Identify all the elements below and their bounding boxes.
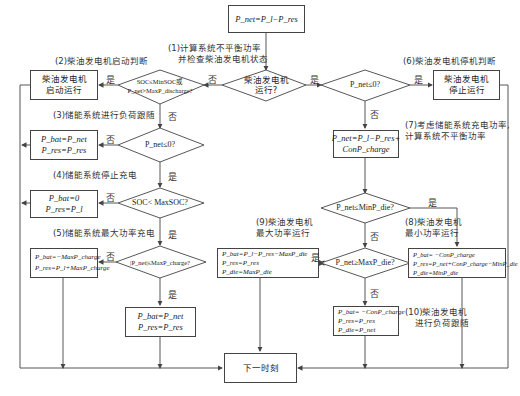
box-diesel-stop: 柴油发电机 停止运行: [433, 70, 500, 100]
annotation-10: (10)柴油发电机 进行负荷跟随: [405, 307, 469, 329]
diamond-soc-text: SOC< MaxSOC?: [124, 198, 196, 208]
box-load-track: P_bat= −ConP_charge P_res=P_res P_die=P_…: [333, 306, 399, 336]
edge-label-yes: 是: [168, 288, 177, 301]
box-next-step: 下一时刻: [224, 353, 297, 383]
annotation-7: (7)考虑储能系统充电功率, 计算系统不平衡功率: [405, 120, 510, 142]
edge-label-no: 否: [168, 110, 177, 123]
edge-label-yes: 是: [311, 251, 320, 264]
diamond-pnet-le0-left-text: P_net≤0?: [130, 140, 190, 150]
annotation-1: (1)计算系统不平衡功率 并检查柴油发电机状态: [168, 43, 268, 65]
edge-label-no: 否: [370, 230, 379, 243]
diamond-diesel-running-text: 柴油发电机 运行?: [232, 75, 300, 95]
edge-label-yes: 是: [428, 196, 437, 209]
edge-label-no: 否: [106, 191, 115, 204]
edge-label-yes: 是: [414, 73, 423, 86]
annotation-6: (6)柴油发电机停机判断: [403, 56, 496, 67]
diamond-pnet-le0-right-text: P_net≤0?: [335, 80, 395, 90]
diamond-abs-pnet-text: |P_net|≤MaxP_charge?: [120, 258, 200, 268]
box-load-follow: P_bat=P_net P_res=P_res: [30, 130, 98, 160]
box-max-power: P_bat=P_l−P_res−MaxP_die P_res=P_res P_d…: [217, 248, 319, 278]
edge-label-yes: 是: [168, 170, 177, 183]
box-min-power: P_bat= −ConP_charge P_res=P_net+ConP_cha…: [408, 248, 506, 278]
edge-label-no: 否: [106, 250, 115, 263]
box-max-charge: P_bat=−MaxP_charge P_res=P_l+MaxP_charge: [30, 248, 98, 278]
edge-label-no: 否: [370, 287, 379, 300]
start-box: P_net=P_l−P_res: [228, 5, 305, 33]
diamond-start-judge-text: SOC≤MinSOC或 P_net>MaxP_discharge?: [124, 77, 196, 95]
edge-label-no: 否: [370, 108, 379, 121]
annotation-5: (5)储能系统最大功率充电: [53, 228, 155, 239]
box-stop-charge: P_bat=0 P_res=P_l: [30, 190, 98, 218]
box-diesel-start: 柴油发电机 启动运行: [30, 70, 98, 100]
annotation-9: (9)柴油发电机 最大功率运行: [256, 217, 313, 239]
edge-label-yes: 是: [168, 228, 177, 241]
edge-label-yes: 是: [310, 73, 319, 86]
annotation-2: (2)柴油发电机启动判断: [55, 56, 148, 67]
box-charge-normal: P_bat=P_net P_res=P_res: [125, 307, 196, 337]
annotation-8: (8)柴油发电机 最小功率运行: [405, 217, 462, 239]
edge-label-yes: 是: [106, 73, 115, 86]
box-recalc: P_net=P_l−P_res+ ConP_charge: [333, 130, 399, 158]
annotation-4: (4)储能系统停止充电: [53, 170, 137, 181]
edge-label-no: 否: [208, 73, 217, 86]
diamond-max-die-text: P_net≥MaxP_die?: [330, 258, 400, 268]
diamond-min-die-text: P_net≤MinP_die?: [330, 203, 400, 213]
annotation-3: (3)储能系统进行负荷跟随: [53, 110, 155, 121]
edge-label-no: 否: [106, 133, 115, 146]
